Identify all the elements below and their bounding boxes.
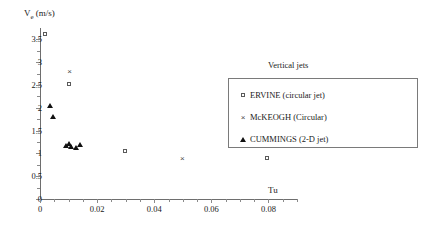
x-tick-minor [226, 199, 227, 202]
x-tick-label: 0.04 [134, 205, 174, 214]
data-point-square [43, 32, 47, 36]
x-tick-major [268, 199, 269, 203]
y-tick-label: 2 [12, 104, 42, 113]
x-tick-label: 0.02 [77, 205, 117, 214]
x-tick-minor [240, 199, 241, 202]
data-point-triangle [50, 114, 56, 119]
y-axis-title-unit: (m/s) [34, 8, 55, 18]
x-tick-minor [126, 199, 127, 202]
y-tick-label: 0.5 [12, 172, 42, 181]
data-point-cross: × [66, 68, 73, 75]
x-tick-minor [283, 199, 284, 202]
data-point-square [265, 156, 269, 160]
x-tick-major [154, 199, 155, 203]
legend-title: Vertical jets [268, 61, 308, 70]
data-point-cross: × [240, 114, 247, 121]
data-point-square [123, 149, 127, 153]
y-tick-label: 2.5 [12, 81, 42, 90]
x-tick-minor [140, 199, 141, 202]
y-tick-minor [37, 119, 40, 120]
y-tick-label: 0 [12, 195, 42, 204]
x-tick-minor [254, 199, 255, 202]
legend-label: McKEOGH (Circular) [250, 113, 327, 122]
x-axis-title: Tu [268, 185, 278, 195]
x-tick-major [211, 199, 212, 203]
x-tick-label: 0 [20, 205, 60, 214]
y-tick-label: 1 [12, 149, 42, 158]
x-tick-major [97, 199, 98, 203]
legend-item[interactable]: ×McKEOGH (Circular) [236, 110, 327, 124]
x-tick-minor [297, 199, 298, 202]
legend-symbol-open-square-icon [236, 93, 250, 97]
data-point-triangle [47, 103, 53, 108]
legend-symbol-cross-icon: × [236, 114, 250, 121]
y-tick-label: 3.5 [12, 35, 42, 44]
x-tick-major [40, 199, 41, 203]
legend-symbol-filled-triangle-icon [236, 137, 250, 142]
x-tick-minor [69, 199, 70, 202]
y-axis-title: Ve (m/s) [24, 8, 55, 22]
legend-label: ERVINE (circular jet) [250, 91, 325, 100]
data-point-square [67, 82, 71, 86]
x-tick-minor [111, 199, 112, 202]
x-tick-minor [83, 199, 84, 202]
y-tick-minor [37, 51, 40, 52]
y-tick-minor [37, 165, 40, 166]
y-tick-label: 1.5 [12, 127, 42, 136]
y-tick-minor [37, 74, 40, 75]
x-tick-minor [54, 199, 55, 202]
chart-root: Ve (m/s) Tu 00.511.522.533.5 00.020.040.… [0, 0, 432, 242]
data-point-square [241, 93, 245, 97]
data-point-triangle [240, 137, 246, 142]
y-tick-minor [37, 188, 40, 189]
x-tick-label: 0.08 [248, 205, 288, 214]
legend-item[interactable]: ERVINE (circular jet) [236, 88, 325, 102]
x-tick-minor [169, 199, 170, 202]
legend-label: CUMMINGS (2-D jet) [250, 135, 328, 144]
x-tick-minor [183, 199, 184, 202]
legend-item[interactable]: CUMMINGS (2-D jet) [236, 132, 328, 146]
x-tick-minor [197, 199, 198, 202]
y-tick-minor [37, 96, 40, 97]
data-point-triangle [77, 142, 83, 147]
y-tick-minor [37, 142, 40, 143]
data-point-cross: × [179, 155, 186, 162]
y-tick-label: 3 [12, 58, 42, 67]
x-tick-label: 0.06 [191, 205, 231, 214]
